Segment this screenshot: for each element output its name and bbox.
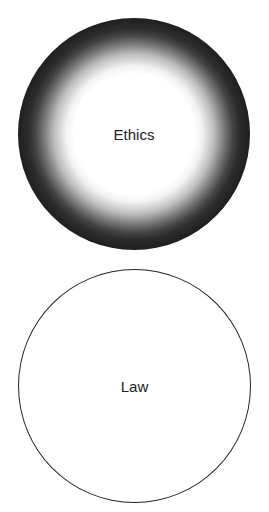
law-circle: Law	[18, 269, 251, 503]
ethics-label: Ethics	[18, 127, 250, 142]
law-label: Law	[19, 379, 250, 394]
ethics-circle: Ethics	[18, 18, 250, 250]
